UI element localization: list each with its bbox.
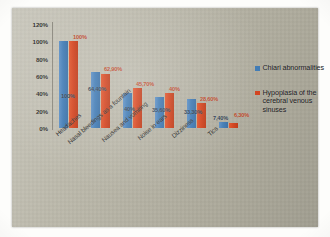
- photographed-slide-chart: 120%100%80%60%40%20%0% 100%100%64,40%62,…: [0, 0, 330, 237]
- bar-value-label: 33,30%: [184, 109, 202, 115]
- legend-item[interactable]: Chiari abnormalities: [255, 64, 330, 73]
- legend-swatch-icon: [255, 91, 260, 96]
- y-tick-label: 0%: [39, 125, 48, 132]
- y-tick-label: 100%: [33, 38, 48, 45]
- y-tick-label: 60%: [36, 73, 48, 80]
- bar-value-label: 28,60%: [200, 96, 218, 102]
- bar-value-label: 100%: [61, 93, 75, 99]
- bar-value-label: 40%: [169, 86, 180, 92]
- bar-hypoplasia: [197, 103, 206, 128]
- y-tick-label: 20%: [36, 107, 48, 114]
- bar-value-label: 45,70%: [136, 81, 154, 87]
- y-tick-label: 40%: [36, 90, 48, 97]
- bar-value-label: 100%: [73, 34, 87, 40]
- slide-surface: 120%100%80%60%40%20%0% 100%100%64,40%62,…: [12, 8, 318, 227]
- legend-item[interactable]: Hypoplasia of the cerebral venous sinuse…: [255, 89, 330, 115]
- bar-chiari: [59, 41, 68, 128]
- y-tick-label: 80%: [36, 55, 48, 62]
- bar-value-label: 62,90%: [104, 66, 122, 72]
- chart-legend: Chiari abnormalitiesHypoplasia of the ce…: [255, 64, 330, 130]
- bar-hypoplasia: [229, 123, 238, 128]
- legend-label: Hypoplasia of the cerebral venous sinuse…: [263, 89, 330, 115]
- bar-chiari: [219, 122, 228, 128]
- y-axis-line: [52, 22, 53, 130]
- plot-area: 120%100%80%60%40%20%0% 100%100%64,40%62,…: [52, 24, 247, 128]
- y-tick-label: 120%: [33, 21, 48, 28]
- bar-value-label: 35,60%: [152, 107, 170, 113]
- bar-value-label: 7,40%: [213, 115, 228, 121]
- bar-value-label: 64,40%: [88, 86, 106, 92]
- legend-label: Chiari abnormalities: [263, 64, 325, 73]
- legend-swatch-icon: [255, 66, 260, 71]
- bar-hypoplasia: [101, 74, 110, 129]
- bar-value-label: 6,30%: [234, 112, 249, 118]
- x-axis-category-labels: HeadachesNasal bleedings as a fountainNa…: [52, 130, 252, 230]
